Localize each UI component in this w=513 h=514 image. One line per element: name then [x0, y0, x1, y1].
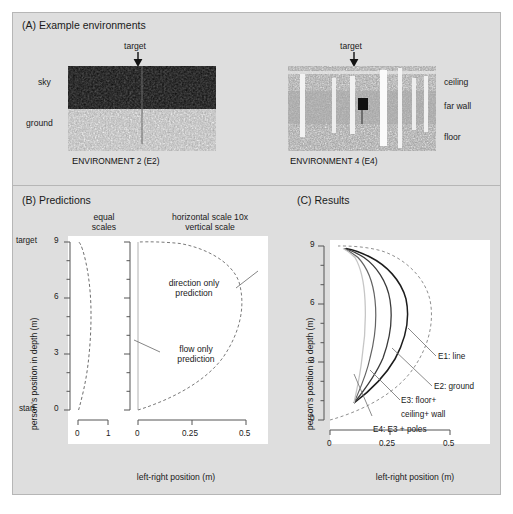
env4-label-floor: floor: [444, 132, 461, 142]
panel-b-header-right: horizontal scale 10x vertical scale: [150, 212, 270, 232]
panel-b-xlabel: left-right position (m): [86, 472, 266, 482]
target-label-right: target: [340, 41, 362, 51]
panel-c-ytick-3: 3: [310, 356, 315, 365]
target-label-left: target: [124, 41, 146, 51]
annotation-direction-only-leader: [236, 270, 262, 292]
legend-e1-line: E1: line: [438, 352, 465, 361]
env4-label-ceiling: ceiling: [444, 77, 468, 87]
series-e1-line: [346, 249, 408, 404]
panel-c-plot: [296, 230, 508, 470]
env2-label-ground: ground: [26, 118, 53, 128]
panel-b-right-xtick-05: 0.5: [239, 429, 250, 438]
panel-b-left-xtick-1: 1: [106, 429, 111, 438]
environment-2-image: [68, 66, 216, 151]
series-direction-only-results: [330, 246, 431, 420]
panel-b-title: (B) Predictions: [22, 194, 91, 206]
env4-label-farwall: far wall: [444, 101, 471, 111]
panel-b-header-right-line1: horizontal scale 10x: [150, 212, 270, 222]
panel-b-ytick-0: 0: [54, 404, 59, 413]
env2-label-sky: sky: [38, 77, 51, 87]
panel-b-ytick-3: 3: [54, 348, 59, 357]
panel-c-ytick-9: 9: [310, 240, 315, 249]
panel-a-title: (A) Example environments: [22, 19, 146, 31]
panel-c-ytick-0: 0: [310, 414, 315, 423]
env4-caption-rest: NVIRONMENT 4 (E4): [296, 156, 377, 166]
series-direction-only-10x: [138, 242, 242, 410]
annotation-flow-only-leader: [134, 340, 162, 356]
panel-b-right-xtick-025: 0.25: [182, 429, 198, 438]
legend-e3-floor: E3: floor+: [401, 396, 436, 405]
panel-b-left-xtick-0: 0: [75, 429, 80, 438]
series-e4-e3-plus-poles: [343, 249, 365, 404]
panel-c-xtick-025: 0.25: [379, 439, 395, 448]
leader-e2: [392, 348, 432, 386]
annotation-direction-only: direction only prediction: [148, 278, 240, 298]
panel-b-right-xtick-0: 0: [135, 429, 140, 438]
leader-e1: [408, 328, 436, 356]
annotation-flow-only: flow only prediction: [160, 344, 232, 364]
panel-c-xtick-0: 0: [327, 439, 332, 448]
legend-e2-ground: E2: ground: [434, 382, 474, 391]
legend-e4-poles: E4: E3 + poles: [373, 425, 426, 434]
legend-e3-ceiling-wall: ceiling+ wall: [401, 410, 445, 419]
annotation-direction-only-line2: prediction: [148, 288, 240, 298]
series-flow-only-equal-scale: [79, 242, 91, 410]
env2-caption-rest: NVIRONMENT 2 (E2): [78, 156, 159, 166]
panel-b-header-left-line1: equal: [76, 212, 132, 222]
panel-b-ytick-start-word: start: [19, 404, 35, 413]
panel-b-ytick-9: 9: [54, 236, 59, 245]
panel-c-xtick-05: 0.5: [443, 439, 454, 448]
panel-c-xlabel: left-right position (m): [340, 472, 490, 482]
panel-c-title: (C) Results: [297, 194, 350, 206]
annotation-direction-only-line1: direction only: [148, 278, 240, 288]
panel-b-ytick-target-word: target: [16, 236, 37, 245]
environment-4-caption: ENVIRONMENT 4 (E4): [290, 155, 378, 166]
panel-b-right-subplot: [124, 242, 246, 425]
panel-b-ytick-6: 6: [54, 292, 59, 301]
figure-root: (A) Example environments target: [0, 0, 513, 514]
panel-b-yaxis: [64, 242, 70, 410]
panel-c-ytick-6: 6: [310, 298, 315, 307]
environment-2-caption: ENVIRONMENT 2 (E2): [72, 155, 160, 166]
panel-b-left-subplot: [78, 242, 108, 425]
panel-b-header-left: equal scales: [76, 212, 132, 232]
environment-4-image: [288, 66, 436, 151]
annotation-flow-only-line2: prediction: [160, 354, 232, 364]
panel-c-yaxis: [318, 246, 324, 420]
annotation-flow-only-line1: flow only: [160, 344, 232, 354]
